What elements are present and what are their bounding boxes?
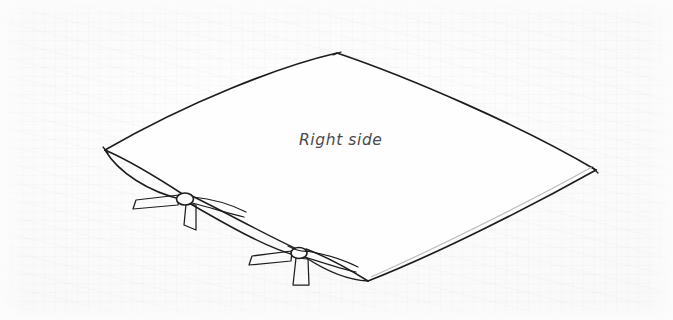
cushion-cover-drawing — [0, 0, 673, 320]
lower-tie-tail-down — [293, 258, 309, 285]
lower-tie-tail-left — [249, 251, 292, 265]
panel-outline — [105, 53, 596, 281]
figure-root: Right side — [0, 0, 673, 320]
upper-tie-knot — [177, 193, 194, 205]
upper-tie-tail-down — [184, 204, 196, 230]
right-side-label: Right side — [299, 131, 383, 149]
